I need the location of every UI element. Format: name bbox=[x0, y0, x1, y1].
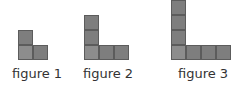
figure-3-label: figure 3 bbox=[178, 66, 228, 81]
unit-square bbox=[33, 45, 48, 60]
corner-square bbox=[171, 45, 186, 60]
figure-1-label: figure 1 bbox=[12, 66, 62, 81]
unit-square bbox=[186, 45, 201, 60]
unit-square bbox=[171, 15, 186, 30]
unit-square bbox=[216, 45, 231, 60]
unit-square bbox=[18, 30, 33, 45]
unit-square bbox=[171, 30, 186, 45]
corner-square bbox=[84, 45, 99, 60]
unit-square bbox=[84, 15, 99, 30]
unit-square bbox=[114, 45, 129, 60]
unit-square bbox=[84, 30, 99, 45]
unit-square bbox=[201, 45, 216, 60]
unit-square bbox=[99, 45, 114, 60]
figure-2-label: figure 2 bbox=[83, 66, 133, 81]
corner-square bbox=[18, 45, 33, 60]
unit-square bbox=[171, 0, 186, 15]
